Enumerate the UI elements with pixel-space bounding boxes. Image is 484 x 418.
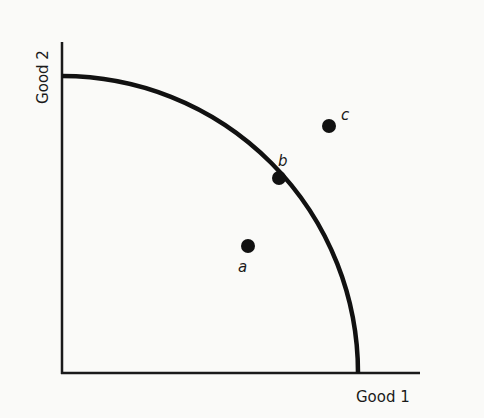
point-c-label: c (341, 106, 350, 124)
point-a (241, 239, 255, 253)
point-b-label: b (278, 152, 288, 170)
point-c (322, 119, 336, 133)
ppf-diagram: a b c Good 1 Good 2 (0, 0, 484, 418)
production-possibilities-curve (62, 76, 358, 373)
point-a-label: a (238, 258, 247, 276)
x-axis-label: Good 1 (356, 388, 410, 406)
point-b (272, 171, 286, 185)
y-axis-label: Good 2 (34, 50, 52, 104)
